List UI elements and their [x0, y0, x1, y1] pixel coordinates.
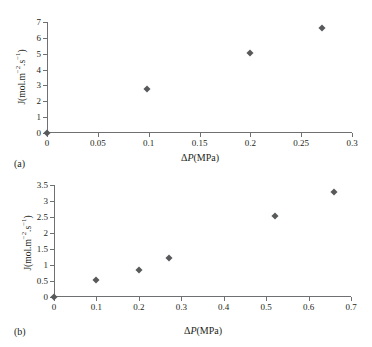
x-tick-b-4	[224, 297, 225, 301]
y-axis-title-b-sup1: −2	[20, 232, 27, 239]
figure-container: 0123456700.050.10.150.20.250.3 J(mol.m−2…	[0, 0, 372, 347]
y-tick-label-b-4: 2	[44, 229, 49, 238]
y-tick-label-a-7: 7	[37, 18, 42, 27]
y-axis-title-a-sup2: −1	[14, 53, 21, 60]
y-tick-b-3	[50, 249, 54, 250]
x-tick-label-a-3: 0.15	[192, 139, 208, 148]
data-point-b-3	[165, 255, 172, 262]
x-tick-a-1	[98, 133, 99, 137]
x-tick-label-a-1: 0.05	[90, 139, 106, 148]
data-point-b-4	[271, 212, 278, 219]
y-tick-b-7	[50, 185, 54, 186]
y-tick-a-7	[43, 22, 47, 23]
y-tick-label-a-3: 3	[37, 81, 42, 90]
y-tick-label-a-2: 2	[37, 97, 42, 106]
y-axis-title-b-suffix: )	[23, 215, 33, 218]
x-tick-a-5	[301, 133, 302, 137]
x-tick-a-6	[352, 133, 353, 137]
x-axis-title-a: ΔP(MPa)	[181, 152, 219, 163]
data-point-a-1	[143, 86, 150, 93]
data-point-b-2	[135, 266, 142, 273]
y-tick-label-b-5: 2.5	[37, 213, 48, 222]
x-tick-label-a-0: 0	[45, 139, 50, 148]
y-tick-label-a-0: 0	[37, 129, 42, 138]
panel-label-a: (a)	[14, 158, 25, 169]
x-tick-label-a-4: 0.2	[245, 139, 256, 148]
x-tick-a-4	[250, 133, 251, 137]
y-axis-a	[47, 22, 48, 133]
data-point-a-0	[43, 129, 50, 136]
y-tick-a-3	[43, 85, 47, 86]
y-axis-title-a-prefix: J(mol.m	[17, 73, 27, 104]
y-tick-label-a-1: 1	[37, 113, 42, 122]
y-tick-label-a-6: 6	[37, 33, 42, 42]
x-tick-b-7	[351, 297, 352, 301]
y-tick-label-a-4: 4	[37, 65, 42, 74]
x-tick-label-b-7: 0.7	[345, 303, 356, 312]
y-tick-label-b-0: 0	[44, 293, 49, 302]
y-tick-a-5	[43, 54, 47, 55]
y-axis-title-b-sup2: −1	[20, 219, 27, 226]
x-tick-label-b-2: 0.2	[133, 303, 144, 312]
x-tick-b-6	[309, 297, 310, 301]
y-axis-title-a: J(mol.m−2.s−1)	[17, 30, 27, 125]
data-point-a-2	[247, 49, 254, 56]
x-tick-a-2	[149, 133, 150, 137]
x-axis-b	[54, 296, 351, 297]
x-axis-title-b-unit: (MPa)	[196, 325, 222, 336]
x-tick-b-2	[139, 297, 140, 301]
x-tick-b-3	[181, 297, 182, 301]
x-tick-label-b-5: 0.5	[261, 303, 272, 312]
data-point-a-3	[318, 25, 325, 32]
y-tick-label-b-6: 3	[44, 197, 49, 206]
x-tick-label-a-5: 0.25	[293, 139, 309, 148]
y-axis-title-b-prefix: J(mol.m	[23, 239, 33, 270]
panel-label-b: (b)	[14, 326, 26, 337]
x-tick-label-b-3: 0.3	[176, 303, 187, 312]
y-axis-title-b: J(mol.m−2.s−1)	[23, 196, 33, 291]
data-point-b-1	[93, 276, 100, 283]
x-axis-title-a-unit: (MPa)	[193, 152, 219, 163]
x-tick-b-5	[266, 297, 267, 301]
x-tick-label-b-6: 0.6	[303, 303, 314, 312]
plot-area-a: 0123456700.050.10.150.20.250.3	[47, 22, 352, 133]
x-tick-label-b-4: 0.4	[218, 303, 229, 312]
y-tick-label-b-1: 0.5	[37, 277, 48, 286]
x-tick-label-b-1: 0.1	[91, 303, 102, 312]
x-tick-label-a-6: 0.3	[346, 139, 357, 148]
panel-a: 0123456700.050.10.150.20.250.3 J(mol.m−2…	[0, 0, 372, 175]
y-axis-b	[54, 185, 55, 297]
x-tick-a-3	[200, 133, 201, 137]
y-tick-label-b-3: 1.5	[37, 245, 48, 254]
y-axis-title-a-sup1: −2	[14, 66, 21, 73]
y-tick-b-4	[50, 233, 54, 234]
y-tick-a-2	[43, 101, 47, 102]
y-axis-title-a-suffix: )	[17, 49, 27, 52]
y-tick-label-b-2: 1	[44, 261, 49, 270]
x-axis-title-b: ΔP(MPa)	[184, 325, 222, 336]
x-tick-label-b-0: 0	[52, 303, 57, 312]
y-tick-label-b-7: 3.5	[37, 181, 48, 190]
y-tick-a-1	[43, 117, 47, 118]
y-axis-title-b-mid: .s	[23, 226, 33, 232]
y-tick-b-5	[50, 217, 54, 218]
x-tick-label-a-2: 0.1	[143, 139, 154, 148]
x-tick-b-1	[96, 297, 97, 301]
y-tick-a-4	[43, 70, 47, 71]
y-tick-b-1	[50, 281, 54, 282]
data-point-b-5	[330, 188, 337, 195]
y-tick-b-2	[50, 265, 54, 266]
y-axis-title-a-mid: .s	[17, 60, 27, 66]
y-tick-b-6	[50, 201, 54, 202]
y-tick-label-a-5: 5	[37, 49, 42, 58]
y-tick-a-6	[43, 38, 47, 39]
plot-area-b: 00.511.522.533.500.10.20.30.40.50.60.7	[54, 185, 351, 297]
